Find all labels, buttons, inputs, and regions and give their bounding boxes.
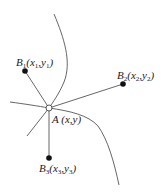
label-b1-name: B	[16, 56, 23, 68]
label-b2-name: B	[117, 69, 124, 81]
label-b1: B1(x1,y1)	[16, 57, 53, 70]
label-b3-sub: 3	[46, 168, 50, 176]
line-a-b1	[25, 71, 49, 108]
label-b1-y-sub: 1	[46, 62, 50, 70]
label-b2-x-sub: 2	[136, 75, 140, 83]
label-a: A (x,y)	[52, 114, 81, 125]
label-b3-y-sub: 3	[69, 168, 73, 176]
label-b2: B2(x2,y2)	[117, 70, 154, 83]
label-a-text: A (x,y)	[52, 113, 81, 125]
label-b3-x-sub: 3	[58, 168, 62, 176]
label-b2-sub: 2	[124, 75, 128, 83]
point-a	[46, 105, 52, 111]
point-b3	[46, 155, 52, 161]
diagram-canvas	[0, 0, 166, 194]
label-b1-sub: 1	[23, 62, 27, 70]
label-b2-y-sub: 2	[147, 75, 151, 83]
label-b3: B3(x3,y3)	[39, 163, 76, 176]
label-b1-x-sub: 1	[35, 62, 39, 70]
line-a-b2	[49, 84, 123, 108]
label-b3-name: B	[39, 162, 46, 174]
